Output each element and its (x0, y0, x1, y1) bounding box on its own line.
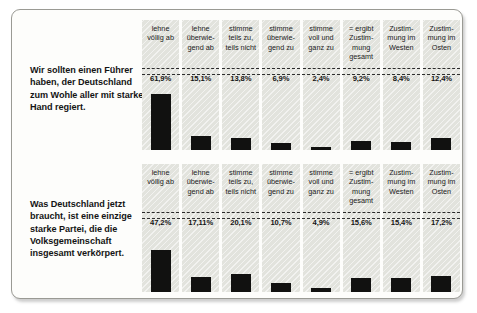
column-bar-area (303, 83, 340, 150)
bar (271, 283, 291, 292)
chart-column: = ergibt Zustim- mung gesamt 15,6% (343, 164, 380, 292)
bar (351, 141, 371, 150)
column-bar-area (262, 227, 299, 292)
column-value: 10,7% (262, 213, 299, 227)
bar (231, 138, 251, 150)
column-header: Zustim- mung im Osten (423, 20, 460, 68)
chart-column: stimme teils zu, teils nicht 20,1% (222, 164, 259, 292)
column-bar-area (182, 227, 219, 292)
column-bar-area (182, 83, 219, 150)
column-value: 13,8% (222, 69, 259, 83)
column-header: stimme überwie- gend zu (262, 20, 299, 68)
column-value: 20,1% (222, 213, 259, 227)
bar (431, 138, 451, 150)
bar (431, 276, 451, 292)
bar (391, 278, 411, 292)
column-header: stimme überwie- gend zu (262, 164, 299, 212)
column-bar-area (383, 227, 420, 292)
column-header: = ergibt Zustim- mung gesamt (343, 164, 380, 212)
column-value: 47,2% (142, 213, 179, 227)
column-bar-area (303, 227, 340, 292)
column-value: 61,9% (142, 69, 179, 83)
chart-section-fuehrer: Wir sollten einen Führer haben, der Deut… (12, 14, 464, 154)
column-value: 15,6% (343, 213, 380, 227)
column-header: Zustim- mung im Osten (423, 164, 460, 212)
column-value: 6,9% (262, 69, 299, 83)
column-bar-area (383, 83, 420, 150)
column-header: stimme teils zu, teils nicht (222, 164, 259, 212)
chart-column: stimme voll und ganz zu 2,4% (303, 20, 340, 150)
chart-column: Zustim- mung im Westen 15,4% (383, 164, 420, 292)
column-header: stimme teils zu, teils nicht (222, 20, 259, 68)
column-value: 15,1% (182, 69, 219, 83)
column-bar-area (142, 83, 179, 150)
chart-column: lehne völlig ab 61,9% (142, 20, 179, 150)
chart-column: stimme teils zu, teils nicht 13,8% (222, 20, 259, 150)
figure-page: Wir sollten einen Führer haben, der Deut… (0, 0, 477, 313)
column-header: stimme voll und ganz zu (303, 20, 340, 68)
column-bar-area (423, 227, 460, 292)
bar (311, 147, 331, 150)
column-value: 2,4% (303, 69, 340, 83)
column-header: = ergibt Zustim- mung gesamt (343, 20, 380, 68)
column-value: 8,4% (383, 69, 420, 83)
column-value: 17,11% (182, 213, 219, 227)
bar (271, 143, 291, 150)
bar (151, 250, 171, 292)
column-value: 9,2% (343, 69, 380, 83)
column-bar-area (222, 83, 259, 150)
column-value: 4,9% (303, 213, 340, 227)
chart-column: lehne überwie- gend ab 17,11% (182, 164, 219, 292)
bar (231, 274, 251, 292)
chart-columns: lehne völlig ab 61,9% lehne überwie- gen… (142, 20, 460, 150)
column-bar-area (262, 83, 299, 150)
column-bar-area (142, 227, 179, 292)
bar (351, 278, 371, 292)
column-header: lehne völlig ab (142, 20, 179, 68)
chart-question-label: Was Deutschland jetzt braucht, ist eine … (30, 198, 150, 259)
chart-column: Zustim- mung im Osten 17,2% (423, 164, 460, 292)
chart-question-label: Wir sollten einen Führer haben, der Deut… (30, 64, 150, 113)
chart-column: lehne überwie- gend ab 15,1% (182, 20, 219, 150)
bar (191, 136, 211, 150)
bar (391, 142, 411, 150)
chart-column: lehne völlig ab 47,2% (142, 164, 179, 292)
column-value: 12,4% (423, 69, 460, 83)
figure-frame: Wir sollten einen Führer haben, der Deut… (11, 9, 463, 299)
column-header: stimme voll und ganz zu (303, 164, 340, 212)
column-value: 15,4% (383, 213, 420, 227)
chart-column: = ergibt Zustim- mung gesamt 9,2% (343, 20, 380, 150)
column-header: Zustim- mung im Westen (383, 164, 420, 212)
bar (191, 277, 211, 292)
bar (151, 94, 171, 150)
column-header: lehne völlig ab (142, 164, 179, 212)
chart-column: Zustim- mung im Osten 12,4% (423, 20, 460, 150)
column-bar-area (343, 83, 380, 150)
column-value: 17,2% (423, 213, 460, 227)
column-header: lehne überwie- gend ab (182, 164, 219, 212)
column-bar-area (423, 83, 460, 150)
chart-column: stimme überwie- gend zu 6,9% (262, 20, 299, 150)
chart-column: Zustim- mung im Westen 8,4% (383, 20, 420, 150)
chart-columns: lehne völlig ab 47,2% lehne überwie- gen… (142, 164, 460, 292)
chart-column: stimme überwie- gend zu 10,7% (262, 164, 299, 292)
bar (311, 288, 331, 292)
chart-section-partei: Was Deutschland jetzt braucht, ist eine … (12, 158, 464, 296)
column-header: lehne überwie- gend ab (182, 20, 219, 68)
column-header: Zustim- mung im Westen (383, 20, 420, 68)
column-bar-area (343, 227, 380, 292)
chart-column: stimme voll und ganz zu 4,9% (303, 164, 340, 292)
column-bar-area (222, 227, 259, 292)
